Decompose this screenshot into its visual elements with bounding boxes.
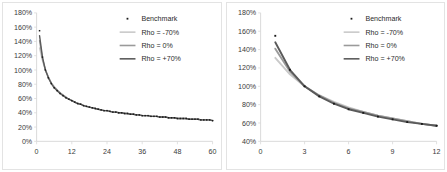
benchmark-marker [42, 56, 43, 57]
y-tick-label: 40% [241, 138, 256, 146]
benchmark-marker [212, 120, 213, 121]
y-tick-label: 60% [241, 120, 256, 128]
benchmark-marker [133, 113, 134, 114]
benchmark-marker [130, 113, 131, 114]
chart-panel-left: 0%20%40%60%80%100%120%140%160%180%012243… [2, 2, 222, 170]
legend-label: Rho = -70% [141, 29, 179, 37]
y-tick-label: 40% [18, 109, 33, 117]
benchmark-marker [209, 119, 210, 120]
x-tick-label: 12 [68, 148, 76, 156]
benchmark-marker [203, 119, 204, 120]
benchmark-marker [180, 118, 181, 119]
benchmark-marker [136, 114, 137, 115]
legend-label: Rho = 0% [365, 42, 397, 50]
benchmark-marker [168, 117, 169, 118]
benchmark-marker [156, 116, 157, 117]
benchmark-marker [65, 97, 66, 98]
benchmark-marker [48, 77, 49, 78]
benchmark-marker [174, 117, 175, 118]
benchmark-marker [103, 110, 104, 111]
y-tick-label: 180% [14, 9, 33, 17]
benchmark-marker [86, 106, 87, 107]
benchmark-marker [303, 85, 305, 87]
x-tick-label: 12 [432, 148, 440, 156]
benchmark-marker [150, 116, 151, 117]
chart-panel-right: 40%60%80%100%120%140%160%180%036912Bench… [226, 2, 446, 170]
benchmark-marker [144, 115, 145, 116]
y-tick-label: 160% [14, 24, 33, 32]
benchmark-marker [197, 118, 198, 119]
y-tick-label: 140% [14, 38, 33, 46]
y-tick-label: 60% [18, 95, 33, 103]
benchmark-marker [183, 118, 184, 119]
benchmark-marker [109, 111, 110, 112]
benchmark-marker [112, 111, 113, 112]
benchmark-marker [420, 123, 422, 125]
two-panel-figure: 0%20%40%60%80%100%120%140%160%180%012243… [0, 0, 447, 172]
chart-left-svg: 0%20%40%60%80%100%120%140%160%180%012243… [3, 3, 221, 169]
legend-label: Rho = +70% [365, 55, 405, 63]
y-tick-label: 140% [237, 46, 256, 54]
benchmark-marker [159, 116, 160, 117]
benchmark-marker [124, 113, 125, 114]
benchmark-marker [92, 107, 93, 108]
benchmark-marker [97, 108, 98, 109]
legend-label: Rho = +70% [141, 55, 181, 63]
legend-marker-swatch [350, 18, 352, 20]
benchmark-marker [177, 118, 178, 119]
legend-label: Benchmark [141, 15, 177, 23]
benchmark-marker [318, 95, 320, 97]
chart-right-svg: 40%60%80%100%120%140%160%180%036912Bench… [227, 3, 445, 169]
benchmark-marker [406, 121, 408, 123]
benchmark-marker [80, 103, 81, 104]
benchmark-marker [106, 110, 107, 111]
benchmark-marker [68, 98, 69, 99]
benchmark-marker [165, 116, 166, 117]
benchmark-marker [95, 108, 96, 109]
benchmark-marker [83, 105, 84, 106]
y-tick-label: 80% [18, 81, 33, 89]
y-tick-label: 100% [14, 67, 33, 75]
benchmark-marker [194, 118, 195, 119]
benchmark-marker [153, 116, 154, 117]
x-tick-label: 0 [35, 148, 39, 156]
x-tick-label: 9 [390, 148, 394, 156]
benchmark-marker [121, 112, 122, 113]
benchmark-marker [56, 90, 57, 91]
benchmark-marker [333, 103, 335, 105]
x-tick-label: 60 [209, 148, 217, 156]
benchmark-marker [200, 119, 201, 120]
benchmark-marker [206, 119, 207, 120]
benchmark-marker [127, 113, 128, 114]
benchmark-marker [74, 101, 75, 102]
benchmark-marker [71, 100, 72, 101]
x-tick-label: 3 [302, 148, 306, 156]
benchmark-marker [376, 116, 378, 118]
benchmark-marker [274, 35, 276, 37]
y-tick-label: 80% [241, 101, 256, 109]
benchmark-marker [115, 111, 116, 112]
y-tick-label: 120% [237, 65, 256, 73]
benchmark-marker [53, 87, 54, 88]
y-tick-label: 100% [237, 83, 256, 91]
benchmark-marker [39, 30, 40, 31]
legend-label: Rho = 0% [141, 42, 173, 50]
benchmark-marker [100, 109, 101, 110]
benchmark-marker [171, 117, 172, 118]
benchmark-marker [347, 108, 349, 110]
benchmark-marker [162, 116, 163, 117]
x-tick-label: 48 [173, 148, 181, 156]
benchmark-marker [185, 118, 186, 119]
x-tick-label: 0 [258, 148, 262, 156]
legend-label: Benchmark [365, 15, 401, 23]
benchmark-marker [435, 125, 437, 127]
benchmark-marker [141, 115, 142, 116]
benchmark-marker [118, 112, 119, 113]
benchmark-marker [362, 112, 364, 114]
benchmark-marker [77, 103, 78, 104]
legend-marker-swatch [127, 18, 129, 20]
y-tick-label: 120% [14, 52, 33, 60]
y-tick-label: 20% [18, 124, 33, 132]
x-tick-label: 6 [346, 148, 350, 156]
x-tick-label: 36 [138, 148, 146, 156]
